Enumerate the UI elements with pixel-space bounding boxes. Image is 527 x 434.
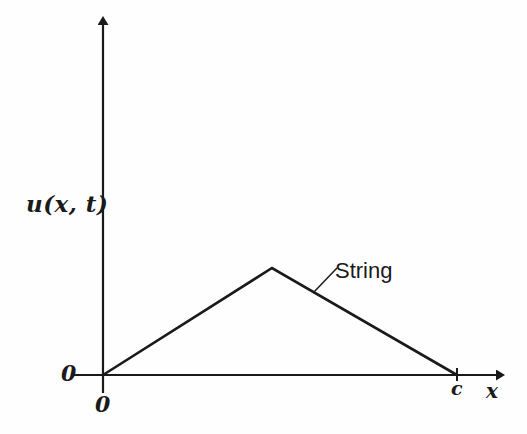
x-axis-origin-label: 0 (95, 393, 110, 415)
string-annotation-label: String (335, 260, 392, 282)
string-leader-line (313, 268, 337, 293)
y-axis-label: u(x, t) (26, 192, 108, 215)
y-axis-origin-label: 0 (61, 362, 76, 384)
string-curve (103, 268, 457, 375)
string-displacement-figure: u(x, t) 0 0 c x String (0, 0, 527, 434)
x-axis-tick-label-c: c (451, 379, 463, 398)
figure-canvas (0, 0, 527, 434)
x-axis-label: x (486, 381, 498, 401)
